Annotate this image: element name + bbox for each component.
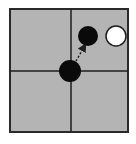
black-stone-upper (78, 26, 98, 46)
black-stone-center (59, 60, 81, 82)
go-diagram (0, 0, 136, 144)
white-stone-upper (106, 26, 126, 46)
